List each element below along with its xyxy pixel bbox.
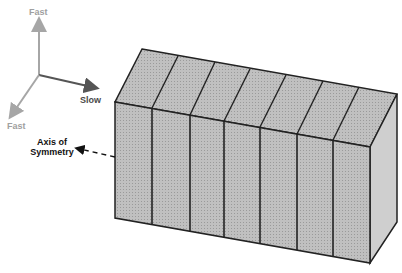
symmetry-pointer <box>80 149 115 157</box>
fast-up-label: Fast <box>29 7 48 17</box>
slow-label: Slow <box>80 95 101 105</box>
symmetry-label-line1: Axis of <box>22 137 82 147</box>
fast-down-label: Fast <box>7 121 26 131</box>
symmetry-label-line2: Symmetry <box>22 147 82 157</box>
slow-arrow <box>39 75 92 87</box>
fast-down-arrow <box>13 75 39 113</box>
symmetry-label: Axis of Symmetry <box>22 137 82 157</box>
